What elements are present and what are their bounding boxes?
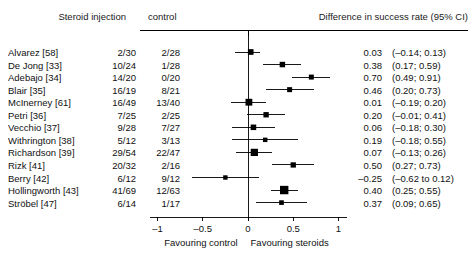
- effect-marker: [263, 112, 268, 117]
- effect-marker: [251, 149, 258, 156]
- effect-marker: [223, 175, 227, 179]
- effect-marker: [263, 138, 267, 142]
- favouring-control-label: Favouring control: [164, 237, 237, 248]
- favouring-steroids-label: Favouring steroids: [251, 237, 329, 248]
- effect-marker: [309, 75, 314, 80]
- effect-marker: [291, 162, 296, 167]
- effect-marker: [280, 62, 285, 67]
- x-axis-tick-label: –0.5: [194, 223, 213, 234]
- effect-marker: [246, 99, 253, 106]
- effect-marker: [279, 200, 284, 205]
- effect-marker: [248, 49, 254, 55]
- effect-marker: [287, 87, 292, 92]
- x-axis-tick-label: 0.5: [287, 223, 300, 234]
- x-axis-tick-label: –1: [152, 223, 163, 234]
- forest-plot: Steroid injection control Difference in …: [0, 0, 476, 264]
- x-axis-tick-label: 1: [336, 223, 341, 234]
- plot-area: [0, 0, 476, 264]
- effect-marker: [280, 186, 288, 194]
- x-axis-tick-label: 0: [245, 223, 250, 234]
- effect-marker: [251, 125, 257, 131]
